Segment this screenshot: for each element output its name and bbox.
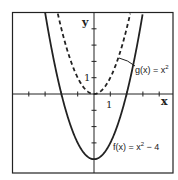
y-tick-label-1: 1 xyxy=(84,72,90,83)
x-tick-label-1: 1 xyxy=(106,99,112,110)
graph-figure: y x 1 1 g(x) = x2 f(x) = x2 − 4 xyxy=(0,0,178,180)
f-function-label: f(x) = x2 − 4 xyxy=(113,141,159,152)
g-function-label: g(x) = x2 xyxy=(135,64,169,75)
y-axis-label: y xyxy=(81,16,89,29)
x-axis-label: x xyxy=(161,95,168,108)
